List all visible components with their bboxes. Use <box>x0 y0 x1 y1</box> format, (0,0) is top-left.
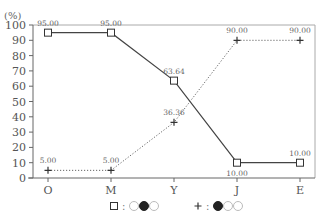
empty-circle-icon <box>224 202 233 211</box>
y-axis-unit-label: (%) <box>4 10 21 21</box>
data-label: 95.00 <box>100 19 122 28</box>
x-tick-label-y: Y <box>169 184 178 197</box>
data-label: 10.00 <box>226 169 248 178</box>
y-tick-label: 0 <box>19 172 26 185</box>
empty-circle-icon <box>130 202 139 211</box>
plus-marker-icon <box>45 167 52 174</box>
y-tick-label: 10 <box>12 157 26 170</box>
square-marker-icon <box>297 159 304 166</box>
plus-marker-icon <box>234 37 241 44</box>
series-layer: 95.0095.0063.6410.0010.005.005.0036.3690… <box>37 19 311 178</box>
y-axis: 0102030405060708090100 (%) <box>4 10 33 185</box>
legend-separator: : <box>122 201 125 212</box>
filled-circle-icon <box>140 202 149 211</box>
empty-circle-icon <box>234 202 243 211</box>
data-label: 95.00 <box>37 19 59 28</box>
line-chart: 0102030405060708090100 (%) OMYJE 95.0095… <box>0 0 324 221</box>
data-label: 90.00 <box>289 26 311 35</box>
plot-frame <box>33 25 315 178</box>
y-tick-label: 60 <box>12 80 26 93</box>
x-tick-label-e: E <box>296 184 304 197</box>
x-tick-label-j: J <box>234 184 239 197</box>
data-label: 5.00 <box>40 156 57 165</box>
data-label: 10.00 <box>289 149 311 158</box>
legend-entry-plus: : <box>195 201 243 212</box>
series-line <box>48 40 300 170</box>
data-label: 36.36 <box>163 108 185 117</box>
x-tick-label-o: O <box>43 184 52 197</box>
y-tick-label: 20 <box>12 141 26 154</box>
legend-separator: : <box>206 201 209 212</box>
chart-legend: :: <box>111 201 243 212</box>
data-label: 63.64 <box>163 67 185 76</box>
series-line <box>48 33 300 163</box>
y-tick-label: 70 <box>12 65 26 78</box>
series-square: 95.0095.0063.6410.0010.00 <box>37 19 311 178</box>
y-tick-label: 40 <box>12 111 26 124</box>
empty-circle-icon <box>150 202 159 211</box>
y-tick-label: 50 <box>12 96 26 109</box>
y-tick-label: 80 <box>12 50 26 63</box>
plus-marker-icon <box>297 37 304 44</box>
legend-entry-square: : <box>111 201 159 212</box>
square-marker-icon <box>108 29 115 36</box>
square-marker-icon <box>234 159 241 166</box>
series-plus: 5.005.0036.3690.0090.00 <box>40 26 311 174</box>
square-marker-icon <box>171 77 178 84</box>
x-tick-label-m: M <box>105 184 116 197</box>
square-marker-icon <box>111 203 118 210</box>
square-marker-icon <box>45 29 52 36</box>
data-label: 90.00 <box>226 26 248 35</box>
filled-circle-icon <box>214 202 223 211</box>
y-tick-label: 30 <box>12 126 26 139</box>
data-label: 5.00 <box>103 156 120 165</box>
y-tick-label: 90 <box>12 34 26 47</box>
plus-marker-icon <box>195 203 202 210</box>
x-axis: OMYJE <box>28 178 315 197</box>
